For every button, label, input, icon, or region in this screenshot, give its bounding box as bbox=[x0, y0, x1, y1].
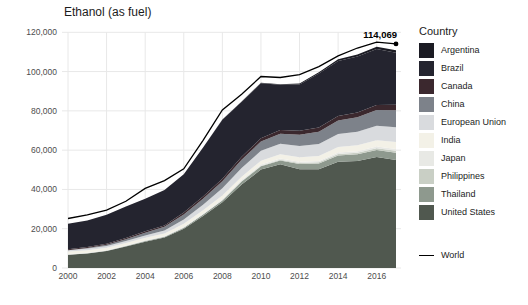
x-tick-label: 2004 bbox=[136, 271, 155, 281]
legend-label: China bbox=[441, 99, 465, 109]
legend-label: Argentina bbox=[441, 45, 480, 55]
x-tick-label: 2000 bbox=[59, 271, 78, 281]
legend-item-thailand: Thailand bbox=[419, 185, 527, 203]
legend-color-swatch bbox=[419, 205, 434, 220]
legend-color-swatch bbox=[419, 115, 434, 130]
legend-color-swatch bbox=[419, 187, 434, 202]
y-tick-label: 20,000 bbox=[31, 224, 57, 234]
legend-label-world: World bbox=[441, 250, 464, 260]
legend-label: European Union bbox=[441, 117, 506, 127]
legend-label: Thailand bbox=[441, 189, 476, 199]
y-tick-label: 0 bbox=[52, 263, 57, 273]
x-tick-label: 2014 bbox=[329, 271, 348, 281]
legend-color-swatch bbox=[419, 79, 434, 94]
legend-item-european-union: European Union bbox=[419, 113, 527, 131]
legend-item-canada: Canada bbox=[419, 77, 527, 95]
legend-item-argentina: Argentina bbox=[419, 41, 527, 59]
legend-label: Canada bbox=[441, 81, 473, 91]
legend-label: Brazil bbox=[441, 63, 464, 73]
legend-color-swatch bbox=[419, 61, 434, 76]
legend-item-china: China bbox=[419, 95, 527, 113]
x-tick-label: 2012 bbox=[290, 271, 309, 281]
legend-color-swatch bbox=[419, 169, 434, 184]
legend-item-philippines: Philippines bbox=[419, 167, 527, 185]
legend-label: United States bbox=[441, 207, 495, 217]
world-end-point bbox=[394, 42, 399, 47]
y-tick-label: 80,000 bbox=[31, 106, 57, 116]
x-tick-label: 2010 bbox=[251, 271, 270, 281]
y-tick-label: 40,000 bbox=[31, 184, 57, 194]
x-tick-label: 2002 bbox=[97, 271, 116, 281]
legend-item-japan: Japan bbox=[419, 149, 527, 167]
world-line-swatch bbox=[419, 255, 434, 256]
legend-item-india: India bbox=[419, 131, 527, 149]
legend: Country Argentina Brazil Canada China Eu… bbox=[419, 25, 527, 262]
legend-item-brazil: Brazil bbox=[419, 59, 527, 77]
legend-label: Japan bbox=[441, 153, 466, 163]
y-tick-label: 100,000 bbox=[26, 67, 57, 77]
x-tick-label: 2006 bbox=[174, 271, 193, 281]
legend-label: Philippines bbox=[441, 171, 485, 181]
legend-color-swatch bbox=[419, 151, 434, 166]
legend-item-world: World bbox=[419, 248, 527, 262]
legend-title: Country bbox=[419, 25, 527, 37]
legend-color-swatch bbox=[419, 133, 434, 148]
legend-color-swatch bbox=[419, 97, 434, 112]
x-tick-label: 2016 bbox=[367, 271, 386, 281]
legend-color-swatch bbox=[419, 43, 434, 58]
x-tick-label: 2008 bbox=[213, 271, 232, 281]
legend-item-united-states: United States bbox=[419, 203, 527, 221]
y-tick-label: 120,000 bbox=[26, 27, 57, 37]
ethanol-chart-page: { "title": "Ethanol (as fuel)", "annotat… bbox=[0, 0, 528, 305]
y-tick-label: 60,000 bbox=[31, 145, 57, 155]
end-value-label: 114,069 bbox=[363, 29, 397, 40]
legend-label: India bbox=[441, 135, 461, 145]
legend-items: Argentina Brazil Canada China European U… bbox=[419, 41, 527, 221]
